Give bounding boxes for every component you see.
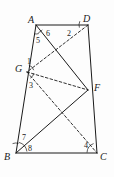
vertex-label-G: G bbox=[15, 64, 22, 74]
angle-7-label: 7 bbox=[22, 134, 26, 142]
angle-4-label: 4 bbox=[84, 142, 88, 150]
angle-8-label: 8 bbox=[28, 145, 32, 153]
angle-1-label: 1 bbox=[27, 58, 31, 66]
angle-3-label: 3 bbox=[29, 82, 33, 90]
geometry-figure: ADBCGF 12345678 bbox=[0, 0, 114, 177]
angle-2-label: 2 bbox=[67, 30, 71, 38]
segment-DG bbox=[27, 25, 88, 72]
segment-AF bbox=[36, 25, 88, 90]
segment-GF bbox=[27, 72, 88, 90]
angle-5-label: 5 bbox=[36, 37, 40, 45]
vertex-label-C: C bbox=[100, 152, 107, 162]
vertex-label-A: A bbox=[28, 15, 34, 25]
vertex-label-B: B bbox=[4, 152, 10, 162]
side-AB bbox=[16, 25, 36, 153]
angle-6-label: 6 bbox=[46, 30, 50, 38]
vertex-label-F: F bbox=[94, 83, 100, 93]
vertex-label-D: D bbox=[83, 14, 90, 24]
segment-BF bbox=[16, 90, 88, 153]
arc-at-D-2 bbox=[79, 21, 80, 27]
